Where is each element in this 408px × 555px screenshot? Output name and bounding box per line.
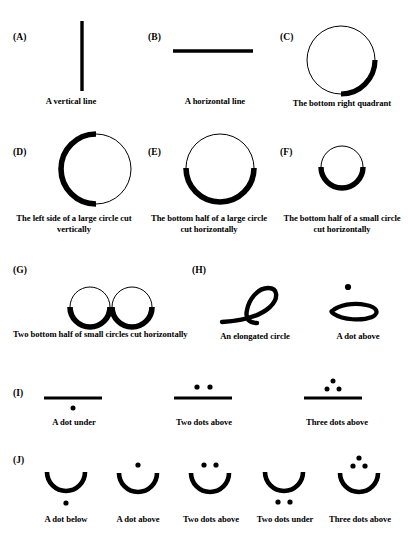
group-label-c: (C) <box>280 33 294 43</box>
caption-large-circle-bottom-half: The bottom half of a large circle cut ho… <box>148 213 270 235</box>
group-label-a: (A) <box>13 33 27 43</box>
shape-large-circle-left-side <box>52 125 140 213</box>
shape-bar-three-dots-above <box>300 368 368 416</box>
caption-bar-three-dots-above: Three dots above <box>291 417 383 428</box>
group-label-e: (E) <box>148 148 161 158</box>
shape-two-small-circles-bottom-halves <box>64 284 166 332</box>
shape-vertical-line <box>60 20 120 92</box>
shape-elongated-loop <box>216 283 292 329</box>
group-label-f: (F) <box>280 148 292 158</box>
shape-flat-loop-dot-above <box>322 280 392 330</box>
group-label-j: (J) <box>13 456 24 466</box>
shape-large-circle-bottom-half <box>177 125 263 211</box>
caption-bottom-right-quadrant: The bottom right quadrant <box>281 98 403 109</box>
caption-flat-loop-dot-above: A dot above <box>312 331 404 342</box>
shape-cup-two-dots-above <box>182 458 238 516</box>
shape-horizontal-line <box>170 20 260 92</box>
shape-small-circle-bottom-half <box>313 138 371 196</box>
shape-cup-dot-above <box>110 458 166 516</box>
group-label-d: (D) <box>13 148 27 158</box>
group-label-h: (H) <box>192 266 206 276</box>
caption-bar-dot-under: A dot under <box>31 417 117 428</box>
caption-small-circle-bottom-half: The bottom half of a small circle cut ho… <box>281 213 403 235</box>
caption-horizontal-line: A horizontal line <box>165 96 265 107</box>
caption-cup-two-dots-under: Two dots under <box>252 514 318 525</box>
shape-cup-dot-below <box>38 466 94 516</box>
caption-two-small-circles-bottom-halves: Two bottom half of small circles cut hor… <box>13 329 209 340</box>
figure-canvas: (A) A vertical line (B) A horizontal lin… <box>0 0 408 555</box>
group-label-i: (I) <box>13 389 23 399</box>
caption-cup-three-dots-above: Three dots above <box>327 514 393 525</box>
shape-bar-two-dots-above <box>170 372 238 416</box>
shape-cup-two-dots-under <box>256 466 312 516</box>
caption-cup-two-dots-above: Two dots above <box>164 514 258 525</box>
group-label-b: (B) <box>148 33 161 43</box>
group-label-g: (G) <box>13 266 27 276</box>
caption-vertical-line: A vertical line <box>26 96 116 107</box>
caption-elongated-loop: An elongated circle <box>200 331 310 342</box>
shape-cup-three-dots-above <box>330 452 388 516</box>
caption-bar-two-dots-above: Two dots above <box>161 417 247 428</box>
caption-large-circle-left-side: The left side of a large circle cut vert… <box>14 213 134 235</box>
shape-bar-dot-under <box>40 378 108 416</box>
shape-bottom-right-quadrant <box>299 18 383 102</box>
